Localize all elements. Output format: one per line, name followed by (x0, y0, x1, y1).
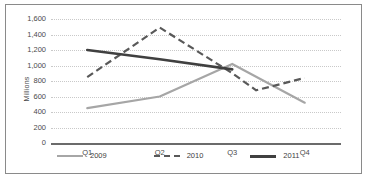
legend-item-2009[interactable]: 2009 (51, 152, 148, 160)
plot-area: 1,6001,4001,2001,0008006004002000 Q1Q2Q3… (51, 19, 341, 143)
y-axis-tick-label: 800 (33, 77, 46, 85)
y-axis-title: Millions (23, 77, 30, 102)
x-axis-line (51, 143, 341, 145)
y-axis-tick-label: 1,600 (27, 15, 46, 23)
legend-label-2009: 2009 (90, 152, 107, 160)
y-axis-tick-label: 1,200 (27, 46, 46, 54)
y-axis-tick-label: 600 (33, 93, 46, 101)
series-layer (51, 19, 341, 143)
legend-label-2011: 2011 (283, 152, 299, 160)
y-axis-tick-label: 200 (33, 124, 46, 132)
y-axis-tick-label: 400 (33, 108, 46, 116)
legend-label-2010: 2010 (187, 152, 204, 160)
legend-swatch-2011 (250, 155, 276, 158)
y-axis-tick-label: 1,000 (27, 62, 46, 70)
legend-swatch-2010 (154, 155, 180, 157)
chart-legend: 2009 2010 2011 (51, 150, 341, 162)
legend-swatch-2009 (57, 155, 83, 157)
y-axis-tick-label: 1,400 (27, 31, 46, 39)
legend-item-2011[interactable]: 2011 (244, 152, 341, 160)
chart-container: Millions 1,6001,4001,2001,00080060040020… (5, 4, 362, 174)
series-line-2009 (87, 64, 305, 108)
y-axis-tick-label: 0 (42, 139, 46, 147)
legend-item-2010[interactable]: 2010 (148, 152, 245, 160)
